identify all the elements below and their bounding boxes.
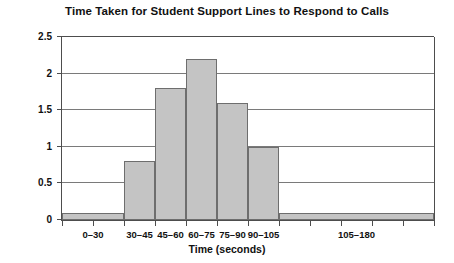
histogram-chart: Time Taken for Student Support Lines to …	[0, 0, 454, 263]
bar	[124, 161, 155, 220]
bar	[279, 213, 434, 220]
x-tick-mark	[62, 220, 63, 226]
x-tick-mark	[403, 220, 404, 226]
plot-right-border	[434, 37, 435, 220]
bar	[155, 88, 186, 220]
x-tick-mark	[155, 220, 156, 226]
y-tick-mark	[57, 36, 62, 37]
y-tick-mark	[57, 73, 62, 74]
y-tick-label: 2.5	[0, 31, 52, 42]
x-tick-label: 30–45	[126, 229, 152, 240]
x-axis-title: Time (seconds)	[0, 243, 454, 255]
bar	[186, 59, 217, 220]
x-tick-label: 75–90	[219, 229, 245, 240]
x-tick-label: 105–180	[338, 229, 375, 240]
x-tick-mark	[186, 220, 187, 226]
y-tick-label: 0	[0, 214, 52, 225]
plot-area: 0–3030–4545–6060–7575–9090–105105–180	[61, 37, 434, 221]
x-tick-mark	[279, 220, 280, 226]
x-tick-label: 60–75	[188, 229, 214, 240]
y-tick-label: 2	[0, 68, 52, 79]
y-tick-mark	[57, 182, 62, 183]
bar	[217, 103, 248, 220]
y-tick-mark	[57, 146, 62, 147]
x-tick-mark	[217, 220, 218, 226]
gridline	[62, 109, 434, 110]
x-tick-mark	[341, 220, 342, 226]
x-tick-mark	[434, 220, 435, 226]
x-tick-mark	[372, 220, 373, 226]
y-tick-label: 0.5	[0, 177, 52, 188]
bar	[248, 147, 279, 220]
bar	[62, 213, 124, 220]
x-tick-mark	[124, 220, 125, 226]
gridline	[62, 73, 434, 74]
x-tick-label: 0–30	[82, 229, 103, 240]
y-tick-mark	[57, 109, 62, 110]
y-tick-label: 1	[0, 141, 52, 152]
x-tick-mark	[310, 220, 311, 226]
chart-title: Time Taken for Student Support Lines to …	[0, 5, 454, 17]
gridline	[62, 36, 434, 37]
x-tick-mark	[93, 220, 94, 226]
x-tick-label: 90–105	[248, 229, 280, 240]
x-tick-label: 45–60	[157, 229, 183, 240]
x-tick-mark	[248, 220, 249, 226]
y-tick-label: 1.5	[0, 104, 52, 115]
